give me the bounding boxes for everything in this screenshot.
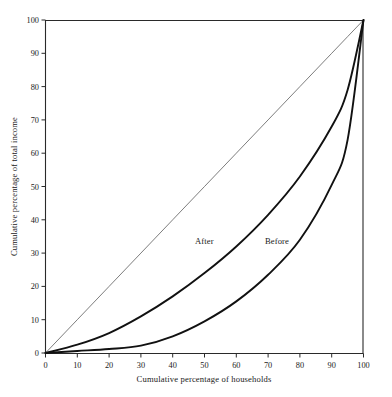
y-tick-labels: 0 10 20 30 40 50 60 70 80 90 100 bbox=[27, 16, 39, 358]
y-tick-label-10: 10 bbox=[31, 316, 39, 325]
x-tick-label-90: 90 bbox=[328, 361, 336, 370]
x-tick-label-30: 30 bbox=[137, 361, 145, 370]
y-axis-title: Cumulative percentage of total income bbox=[9, 117, 19, 256]
x-tick-label-0: 0 bbox=[43, 361, 47, 370]
x-tick-label-100: 100 bbox=[357, 361, 369, 370]
x-axis-title: Cumulative percentage of households bbox=[137, 374, 272, 384]
y-tick-label-100: 100 bbox=[27, 16, 39, 25]
x-tick-label-70: 70 bbox=[264, 361, 272, 370]
y-tick-label-0: 0 bbox=[35, 349, 39, 358]
lorenz-curve-figure: 0 10 20 30 40 50 60 70 80 90 100 bbox=[0, 0, 392, 397]
x-tick-label-80: 80 bbox=[296, 361, 304, 370]
x-tick-labels: 0 10 20 30 40 50 60 70 80 90 100 bbox=[43, 361, 369, 370]
chart-canvas: 0 10 20 30 40 50 60 70 80 90 100 bbox=[0, 0, 392, 397]
y-tick-label-90: 90 bbox=[31, 49, 39, 58]
x-tick-label-50: 50 bbox=[200, 361, 208, 370]
y-tick-label-80: 80 bbox=[31, 83, 39, 92]
y-tick-group bbox=[42, 20, 46, 353]
x-tick-group bbox=[46, 354, 364, 358]
y-tick-label-30: 30 bbox=[31, 249, 39, 258]
x-tick-label-40: 40 bbox=[169, 361, 177, 370]
x-tick-label-10: 10 bbox=[73, 361, 81, 370]
series-label-after: After bbox=[195, 236, 214, 246]
series-label-before: Before bbox=[265, 236, 289, 246]
x-tick-label-60: 60 bbox=[232, 361, 240, 370]
line-of-equality bbox=[46, 20, 364, 353]
y-tick-label-70: 70 bbox=[31, 116, 39, 125]
y-tick-label-40: 40 bbox=[31, 216, 39, 225]
x-tick-label-20: 20 bbox=[105, 361, 113, 370]
y-tick-label-20: 20 bbox=[31, 282, 39, 291]
y-tick-label-50: 50 bbox=[31, 183, 39, 192]
y-tick-label-60: 60 bbox=[31, 149, 39, 158]
